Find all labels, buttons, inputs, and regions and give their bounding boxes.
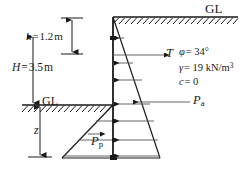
dimension-z-label: z — [34, 124, 39, 136]
Pp-subscript: p — [99, 139, 103, 149]
passive-pressure-arrows — [64, 121, 112, 156]
gamma-value-text: = 19 kN/m — [184, 62, 230, 73]
Pp-symbol: P — [91, 134, 99, 148]
ground-line-top-label: GL — [205, 2, 222, 15]
active-pressure-label: Pa — [193, 94, 205, 108]
c-value-text: = 0 — [185, 76, 199, 87]
gamma-exponent: 3 — [230, 61, 234, 70]
h-value: 1.2 — [40, 30, 54, 42]
phi-value-text: = 34° — [186, 46, 209, 57]
soil-cohesion-label: c = 0 — [179, 77, 198, 88]
diagram-vector-layer — [0, 0, 242, 169]
dimension-h — [61, 18, 83, 54]
dimension-h-label: h = 1.2 m — [26, 31, 63, 42]
h-unit: m — [54, 30, 63, 42]
Pa-subscript: a — [201, 98, 205, 108]
H-value: 3.5 — [29, 61, 43, 73]
ground-line-lower — [22, 105, 113, 112]
passive-pressure-label: Pp — [91, 135, 103, 149]
anchor-point-marker — [110, 36, 116, 40]
dimension-z — [28, 107, 52, 157]
diagram-canvas: GL GL H = 3.5 m h = 1.2 m z T Pa Pp φ = … — [0, 0, 242, 169]
passive-pressure-diagram — [62, 105, 113, 158]
soil-friction-angle-label: φ = 34° — [179, 47, 209, 58]
Pa-symbol: P — [193, 93, 201, 107]
soil-unit-weight-label: γ = 19 kN/m3 — [179, 62, 233, 74]
ground-line-lower-label: GL — [42, 95, 58, 107]
tie-rod-label: T — [166, 47, 173, 60]
dimension-H-label: H = 3.5 m — [12, 62, 53, 74]
ground-line-top — [113, 17, 238, 24]
wall-toe-marker — [110, 155, 117, 160]
H-unit: m — [44, 61, 53, 73]
